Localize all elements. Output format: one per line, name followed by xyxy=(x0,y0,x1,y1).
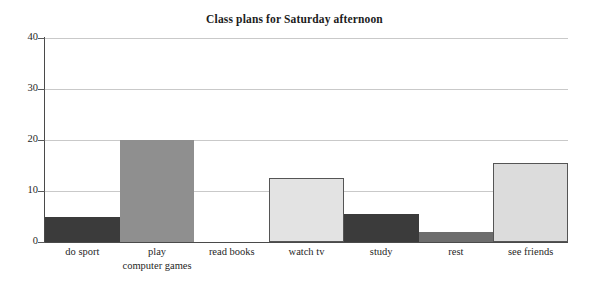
x-axis-tick-label-line: computer games xyxy=(86,259,228,273)
chart-title: Class plans for Saturday afternoon xyxy=(0,13,589,25)
y-axis-tick-mark xyxy=(38,89,45,90)
x-axis-tick-label-line: see friends xyxy=(460,245,589,259)
bar xyxy=(344,214,419,242)
bar-chart: Class plans for Saturday afternoon 01020… xyxy=(0,0,589,291)
y-axis-tick-mark xyxy=(38,191,45,192)
bar xyxy=(45,217,120,243)
bar xyxy=(269,178,344,242)
bar xyxy=(493,163,568,242)
y-axis-tick-mark xyxy=(38,38,45,39)
x-axis-tick-label: see friends xyxy=(460,245,589,259)
bar xyxy=(120,140,195,242)
x-axis-tick-labels: do sportplaycomputer gamesread bookswatc… xyxy=(45,245,568,289)
y-axis-tick-label: 20 xyxy=(4,133,38,144)
y-axis-tick-label: 30 xyxy=(4,82,38,93)
bars-layer xyxy=(45,38,568,242)
y-axis-tick-mark xyxy=(38,140,45,141)
bar xyxy=(419,232,494,242)
y-axis-tick-mark xyxy=(38,242,45,243)
y-axis-tick-label: 10 xyxy=(4,184,38,195)
y-axis-tick-label: 40 xyxy=(4,31,38,42)
